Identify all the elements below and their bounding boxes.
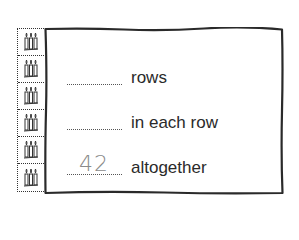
rows-blank[interactable]	[67, 57, 122, 87]
candle-icon	[23, 113, 39, 133]
dotted-line	[67, 129, 122, 130]
answer-box: rows in each row 42 altogether	[44, 27, 284, 195]
candle-row	[18, 110, 44, 137]
in-each-row-line: in each row	[67, 102, 218, 132]
rows-line: rows	[67, 57, 167, 87]
candle-row	[18, 164, 44, 191]
candle-icon	[23, 140, 39, 160]
altogether-line: 42 altogether	[67, 147, 207, 177]
altogether-label: altogether	[131, 159, 207, 176]
rows-label: rows	[131, 69, 167, 86]
candle-row	[18, 83, 44, 110]
candle-array	[17, 28, 44, 192]
candle-row	[18, 29, 44, 56]
altogether-answer: 42	[79, 153, 109, 175]
in-each-row-blank[interactable]	[67, 102, 122, 132]
candle-icon	[23, 86, 39, 106]
candle-icon	[23, 168, 39, 188]
candle-row	[18, 56, 44, 83]
dotted-line	[67, 84, 122, 85]
candle-icon	[23, 59, 39, 79]
in-each-row-label: in each row	[131, 114, 218, 131]
candle-row	[18, 137, 44, 164]
altogether-blank[interactable]: 42	[67, 147, 122, 177]
candle-icon	[23, 32, 39, 52]
